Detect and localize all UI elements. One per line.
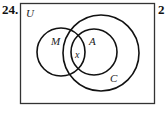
set-m-label: M — [50, 35, 61, 47]
set-a-label: A — [88, 35, 96, 47]
region-x-label: x — [74, 49, 80, 60]
set-c-label: C — [110, 72, 118, 84]
universe-label: U — [26, 7, 35, 19]
venn-diagram: U M A C x — [0, 0, 165, 113]
